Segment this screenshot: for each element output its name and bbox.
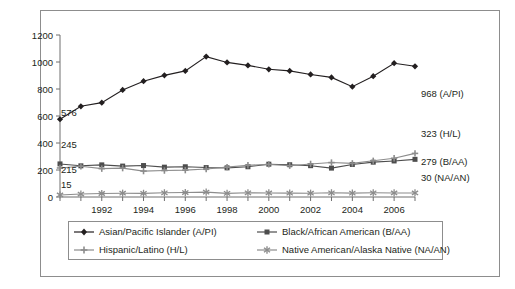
legend-label-baa: Black/African American (B/AA) — [282, 227, 410, 237]
point-marker-diamond — [245, 62, 251, 68]
point-marker-diamond — [391, 60, 397, 66]
point-marker-diamond — [99, 100, 105, 106]
point-marker-diamond — [140, 78, 146, 84]
point-marker-square — [141, 163, 146, 168]
legend-label-hl: Hispanic/Latino (H/L) — [99, 245, 188, 255]
y-tick-label: 400 — [37, 138, 53, 149]
end-annotation-hl: 323 (H/L) — [421, 128, 461, 139]
legend-marker-asterisk-icon — [256, 245, 278, 255]
y-tick-label: 1200 — [32, 30, 53, 41]
y-tick-label: 200 — [37, 165, 53, 176]
series-line-baa — [60, 159, 415, 168]
x-tick-label: 2004 — [342, 204, 363, 215]
legend-item-baa[interactable]: Black/African American (B/AA) — [256, 223, 448, 241]
y-tick-label: 600 — [37, 111, 53, 122]
x-tick-label: 2000 — [258, 204, 279, 215]
point-marker-diamond — [182, 68, 188, 74]
legend-marker-plus-icon — [73, 245, 95, 255]
series-line-hl — [60, 153, 415, 171]
y-tick-label: 800 — [37, 84, 53, 95]
legend-marker-square-icon — [256, 227, 278, 237]
start-annotation-hl: 215 — [61, 164, 77, 175]
chart-figure: 0200400600800100012001992199419961998200… — [0, 0, 515, 289]
point-marker-square — [329, 166, 334, 171]
point-marker-diamond — [266, 66, 272, 72]
x-tick-label: 1998 — [216, 204, 237, 215]
end-annotation-naan: 30 (NA/AN) — [421, 172, 470, 183]
point-marker-diamond — [307, 71, 313, 77]
point-marker-plus — [412, 150, 418, 156]
point-marker-diamond — [287, 68, 293, 74]
x-tick-label: 2002 — [300, 204, 321, 215]
point-marker-diamond — [78, 103, 84, 109]
x-tick-label: 1994 — [133, 204, 154, 215]
y-tick-label: 0 — [48, 192, 53, 203]
legend-item-naan[interactable]: Native American/Alaska Native (NA/AN) — [256, 241, 448, 259]
point-marker-square — [413, 157, 418, 162]
point-marker-diamond — [412, 63, 418, 69]
chart-legend: Asian/Pacific Islander (A/PI) Black/Afri… — [68, 221, 443, 260]
point-marker-diamond — [161, 72, 167, 78]
end-annotation-baa: 279 (B/AA) — [421, 156, 467, 167]
end-annotation-api: 968 (A/PI) — [421, 88, 464, 99]
legend-label-api: Asian/Pacific Islander (A/PI) — [99, 227, 217, 237]
point-marker-diamond — [120, 87, 126, 93]
point-marker-diamond — [349, 84, 355, 90]
start-annotation-naan: 15 — [61, 179, 72, 190]
legend-label-naan: Native American/Alaska Native (NA/AN) — [282, 245, 450, 255]
point-marker-diamond — [224, 59, 230, 65]
start-annotation-baa: 245 — [61, 139, 77, 150]
point-marker-diamond — [328, 74, 334, 80]
start-annotation-api: 576 — [61, 107, 77, 118]
series-line-naan — [60, 192, 415, 195]
x-tick-label: 1996 — [175, 204, 196, 215]
point-marker-plus — [328, 159, 334, 165]
legend-item-hl[interactable]: Hispanic/Latino (H/L) — [73, 241, 256, 259]
x-tick-label: 2006 — [384, 204, 405, 215]
legend-marker-diamond-icon — [73, 227, 95, 237]
y-tick-label: 1000 — [32, 57, 53, 68]
legend-item-api[interactable]: Asian/Pacific Islander (A/PI) — [73, 223, 256, 241]
point-marker-plus — [140, 168, 146, 174]
x-tick-label: 1992 — [91, 204, 112, 215]
point-marker-diamond — [370, 73, 376, 79]
point-marker-diamond — [203, 54, 209, 60]
series-line-api — [60, 57, 415, 120]
